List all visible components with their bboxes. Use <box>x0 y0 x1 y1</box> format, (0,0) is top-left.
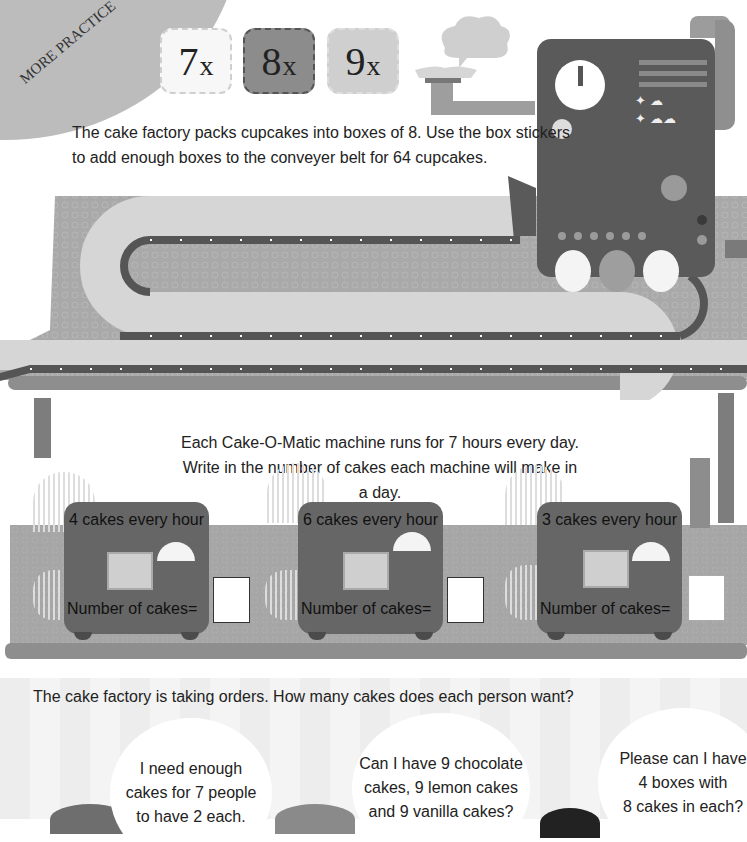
answer-box-3[interactable] <box>688 575 725 621</box>
bubble-line: to have 2 each. <box>126 805 257 829</box>
sticker-suffix: x <box>283 50 297 82</box>
side-pipe <box>715 20 735 130</box>
speech-bubble-2: Can I have 9 chocolatecakes, 9 lemon cak… <box>352 713 530 842</box>
task1-instructions: The cake factory packs cupcakes into box… <box>72 120 570 170</box>
cupcake-swirl-icon: ✦ ☁☁ <box>635 111 676 126</box>
orders-title: The cake factory is taking orders. How m… <box>33 688 574 706</box>
table-leg-pipe <box>718 393 734 523</box>
right-pipe <box>725 240 747 258</box>
bundt-cake-icon <box>343 552 389 590</box>
table-leg <box>34 398 51 458</box>
knob-icon[interactable] <box>661 175 687 201</box>
cake-machine-1: 4 cakes every hour Number of cakes= <box>64 502 209 634</box>
sticker-number: 8 <box>262 38 282 85</box>
sticker-7x[interactable]: 7x <box>160 28 232 94</box>
bubble-line: cakes, 9 lemon cakes <box>359 776 523 800</box>
bubble-line: and 9 vanilla cakes? <box>359 800 523 824</box>
cupcake-swirl-icon: ✦ ☁ <box>635 93 663 108</box>
number-of-cakes-label: Number of cakes= <box>67 600 197 618</box>
sticker-suffix: x <box>200 50 214 82</box>
indicator-light <box>558 232 566 240</box>
machine-rate: 6 cakes every hour <box>298 511 443 529</box>
steam-pipe-icon <box>415 8 545 118</box>
strawberry-button-icon[interactable] <box>555 250 591 292</box>
task2-line1: Each Cake-O-Matic machine runs for 7 hou… <box>180 430 580 455</box>
clock-icon <box>555 60 605 110</box>
cake-machine-3: 3 cakes every hour Number of cakes= <box>537 502 682 634</box>
vent-bar <box>639 82 707 87</box>
side-light <box>697 235 707 245</box>
gauge-icon <box>157 542 195 561</box>
gauge-icon <box>393 532 431 551</box>
gauge-icon <box>632 542 670 561</box>
answer-box-2[interactable] <box>447 577 484 623</box>
speech-bubble-1: I need enoughcakes for 7 peopleto have 2… <box>110 718 272 842</box>
indicator-light <box>622 232 630 240</box>
sticker-8x[interactable]: 8x <box>243 28 315 94</box>
bubble-line: cakes for 7 people <box>126 781 257 805</box>
swiss-roll-icon <box>583 550 629 588</box>
bubble-line: Can I have 9 chocolate <box>359 752 523 776</box>
vent-bar <box>639 71 707 76</box>
person-head-3 <box>540 808 600 838</box>
indicator-light <box>638 232 646 240</box>
answer-box-1[interactable] <box>213 577 250 623</box>
bubble-line: 8 cakes in each? <box>619 795 746 819</box>
sticker-number: 7 <box>179 38 199 85</box>
lemon-button-icon[interactable] <box>599 250 635 292</box>
number-of-cakes-label: Number of cakes= <box>301 600 431 618</box>
cake-machine-2: 6 cakes every hour Number of cakes= <box>298 502 443 634</box>
indicator-light <box>574 232 582 240</box>
bubble-line: 4 boxes with <box>619 771 746 795</box>
number-of-cakes-label: Number of cakes= <box>540 600 670 618</box>
doughnut-icon <box>107 552 153 590</box>
cherry-button-icon[interactable] <box>643 250 679 292</box>
indicator-light <box>606 232 614 240</box>
lower-table-edge <box>5 643 747 659</box>
bubble-line: Please can I have <box>619 747 746 771</box>
task1-line2: to add enough boxes to the conveyer belt… <box>72 145 570 170</box>
indicator-light <box>590 232 598 240</box>
orders-section: The cake factory is taking orders. How m… <box>0 678 747 819</box>
ribbed-tube <box>505 565 540 620</box>
sticker-number: 9 <box>346 38 366 85</box>
person-head-2 <box>275 804 355 834</box>
sticker-suffix: x <box>367 50 381 82</box>
vertical-pipe <box>690 458 710 528</box>
sticker-9x[interactable]: 9x <box>327 28 399 94</box>
vent-bar <box>639 60 707 65</box>
ribbed-tube <box>33 570 63 620</box>
side-light <box>697 215 707 225</box>
ribbed-tube <box>265 570 300 620</box>
task1-line1: The cake factory packs cupcakes into box… <box>72 120 570 145</box>
machine-rate: 4 cakes every hour <box>64 511 209 529</box>
speech-bubble-3: Please can I have4 boxes with8 cakes in … <box>598 708 747 842</box>
bubble-line: I need enough <box>126 757 257 781</box>
machine-rate: 3 cakes every hour <box>537 511 682 529</box>
